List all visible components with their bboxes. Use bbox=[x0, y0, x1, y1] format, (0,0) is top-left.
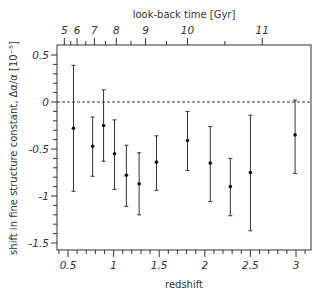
data-point bbox=[228, 158, 232, 215]
data-point bbox=[185, 111, 189, 170]
marker bbox=[208, 161, 212, 165]
y-tick-label: 0.5 bbox=[32, 49, 49, 61]
y-tick-label: 0 bbox=[42, 96, 49, 108]
x-tick-label: 1 bbox=[110, 259, 117, 271]
marker bbox=[186, 139, 190, 143]
data-point bbox=[208, 126, 212, 201]
top-tick-label: 6 bbox=[74, 24, 81, 36]
marker bbox=[113, 152, 117, 156]
marker bbox=[229, 185, 233, 189]
y-tick-label: -1 bbox=[39, 190, 49, 202]
marker bbox=[91, 144, 95, 148]
data-point bbox=[137, 153, 141, 215]
data-point bbox=[154, 136, 158, 191]
top-tick-label: 11 bbox=[256, 24, 269, 36]
top-axis-lookback-time: 567891011 bbox=[61, 24, 269, 45]
data-point bbox=[293, 100, 297, 173]
marker bbox=[293, 133, 297, 137]
data-series bbox=[71, 65, 297, 230]
y-tick-label: -0.5 bbox=[29, 143, 50, 155]
marker bbox=[137, 182, 141, 186]
marker bbox=[72, 127, 76, 131]
data-point bbox=[91, 117, 95, 176]
x-axis-title: redshift bbox=[165, 279, 203, 290]
top-tick-label: 8 bbox=[113, 24, 120, 36]
plot-area bbox=[57, 45, 311, 250]
marker bbox=[102, 124, 106, 128]
data-point bbox=[113, 120, 117, 190]
x-tick-label: 2 bbox=[201, 259, 208, 271]
x-axis: 0.511.522.53 bbox=[59, 250, 305, 271]
top-axis-title: look-back time [Gyr] bbox=[133, 9, 236, 20]
top-tick-label: 9 bbox=[142, 24, 149, 36]
y-axis-title: shift in fine structure constant, Δα/α [… bbox=[8, 41, 19, 255]
data-point bbox=[248, 115, 252, 231]
data-point bbox=[102, 90, 106, 161]
marker bbox=[125, 174, 129, 178]
plot-frame bbox=[57, 45, 311, 250]
top-tick-label: 10 bbox=[181, 24, 195, 36]
y-tick-label: -1.5 bbox=[29, 237, 50, 249]
data-point bbox=[124, 145, 128, 206]
x-tick-label: 2.5 bbox=[242, 259, 259, 271]
x-tick-label: 3 bbox=[293, 259, 300, 271]
x-tick-label: 1.5 bbox=[151, 259, 168, 271]
top-tick-label: 7 bbox=[91, 24, 98, 36]
marker bbox=[155, 160, 159, 164]
data-point bbox=[71, 65, 75, 191]
y-axis: 0.50-0.5-1-1.5 bbox=[29, 49, 58, 249]
chart: 0.50-0.5-1-1.5 0.511.522.53 567891011 re… bbox=[0, 0, 326, 294]
marker bbox=[249, 171, 253, 175]
top-tick-label: 5 bbox=[61, 24, 68, 36]
x-tick-label: 0.5 bbox=[60, 259, 77, 271]
